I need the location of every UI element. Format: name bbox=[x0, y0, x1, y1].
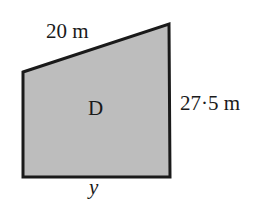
bottom-edge-variable-label: y bbox=[89, 177, 98, 198]
region-name-label: D bbox=[88, 98, 103, 119]
diagram-canvas: 20 m 27·5 m D y bbox=[0, 0, 261, 210]
right-edge-length-label: 27·5 m bbox=[180, 93, 240, 114]
top-edge-length-label: 20 m bbox=[46, 21, 89, 42]
